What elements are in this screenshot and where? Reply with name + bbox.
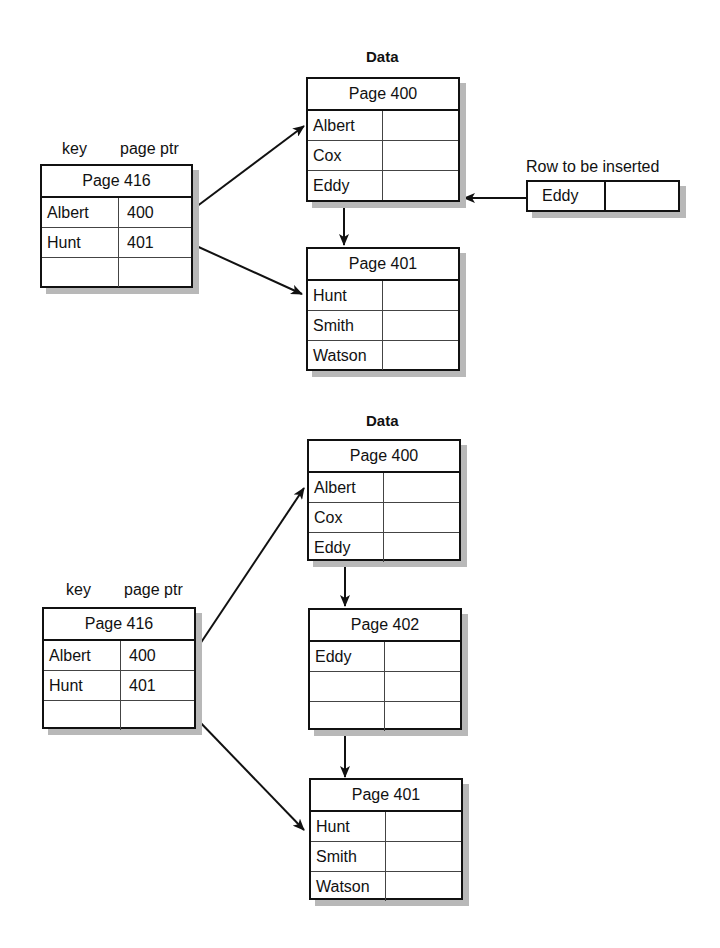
page-title: Page 401 [308,249,458,281]
data-row: Eddy [310,642,460,672]
arrow-416-to-401 [192,244,302,294]
data-row: Cox [309,503,459,533]
index-row [44,701,194,730]
page-title: Page 401 [311,780,461,812]
data-row: Albert [308,111,458,141]
page-ptr-label: page ptr [120,140,179,158]
data-page-400: Page 400 Albert Cox Eddy [306,77,460,202]
data-row: Cox [308,141,458,171]
data-row: Hunt [311,812,461,842]
data-page-401: Page 401 Hunt Smith Watson [309,778,463,900]
data-row: Albert [309,473,459,503]
page-title: Page 416 [42,166,191,198]
data-row: Smith [311,842,461,872]
data-row: Watson [311,872,461,901]
data-page-401: Page 401 Hunt Smith Watson [306,247,460,371]
data-title: Data [366,48,399,65]
data-row: Hunt [308,281,458,311]
index-row [42,258,191,287]
page-title: Page 416 [44,609,194,641]
arrow-416-to-400 [192,126,304,210]
arrow-416-to-400-b [196,488,304,650]
key-label: key [66,581,91,599]
index-page-416: Page 416 Albert400 Hunt401 [42,607,196,729]
data-page-400: Page 400 Albert Cox Eddy [307,439,461,561]
page-ptr-label: page ptr [124,581,183,599]
index-row: Hunt401 [42,228,191,258]
data-row [310,702,460,731]
data-row: Eddy [309,533,459,562]
row-to-insert: Eddy [526,180,680,212]
data-row: Watson [308,341,458,370]
page-title: Page 400 [308,79,458,111]
index-row: Albert400 [42,198,191,228]
data-row: Eddy [308,171,458,200]
index-row: Albert400 [44,641,194,671]
index-page-416: Page 416 Albert400 Hunt401 [40,164,193,288]
index-row: Hunt401 [44,671,194,701]
page-title: Page 400 [309,441,459,473]
page-title: Page 402 [310,610,460,642]
insert-label: Row to be inserted [526,158,659,176]
data-title: Data [366,412,399,429]
data-page-402: Page 402 Eddy [308,608,462,730]
data-row [310,672,460,702]
key-label: key [62,140,87,158]
arrow-416-to-401-b [196,718,304,830]
data-row: Smith [308,311,458,341]
